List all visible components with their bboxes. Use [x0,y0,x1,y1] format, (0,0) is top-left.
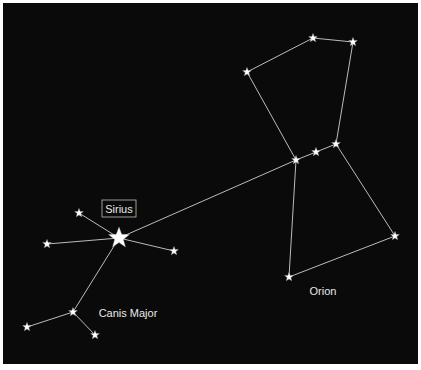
canis-major-label: Canis Major [99,307,158,319]
sirius-label: Sirius [102,200,136,217]
chart-frame [3,3,418,364]
sirius-label-text: Sirius [105,203,133,215]
orion-label: Orion [310,285,337,297]
star-chart: Sirius Canis Major Orion [0,0,421,370]
